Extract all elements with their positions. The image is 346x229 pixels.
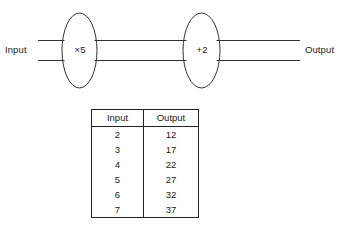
table-body: 2 12 3 17 4 22 5 27 6 32 xyxy=(92,127,199,218)
cell-input: 4 xyxy=(92,157,144,172)
table-row: 7 37 xyxy=(92,202,199,218)
diagram-canvas: Input Output ×5 +2 Input Output 2 12 3 1… xyxy=(0,0,346,229)
machine-pipe-graphic xyxy=(0,0,346,100)
table-header-row: Input Output xyxy=(92,110,199,127)
cell-input: 7 xyxy=(92,202,144,218)
operation-label-add: +2 xyxy=(183,44,221,55)
operation-label-multiply: ×5 xyxy=(62,44,98,55)
function-machine-diagram: Input Output ×5 +2 xyxy=(0,0,346,100)
column-header-output: Output xyxy=(144,110,199,127)
table-row: 5 27 xyxy=(92,172,199,187)
table-row: 6 32 xyxy=(92,187,199,202)
cell-output: 32 xyxy=(144,187,199,202)
output-label: Output xyxy=(305,44,334,55)
cell-output: 12 xyxy=(144,127,199,143)
cell-input: 6 xyxy=(92,187,144,202)
cell-output: 27 xyxy=(144,172,199,187)
cell-input: 3 xyxy=(92,142,144,157)
cell-input: 2 xyxy=(92,127,144,143)
table-row: 2 12 xyxy=(92,127,199,143)
input-output-table: Input Output 2 12 3 17 4 22 5 xyxy=(91,109,199,218)
cell-output: 37 xyxy=(144,202,199,218)
column-header-input: Input xyxy=(92,110,144,127)
table-row: 3 17 xyxy=(92,142,199,157)
input-output-table-container: Input Output 2 12 3 17 4 22 5 xyxy=(91,109,199,218)
cell-output: 17 xyxy=(144,142,199,157)
cell-output: 22 xyxy=(144,157,199,172)
input-label: Input xyxy=(5,44,27,55)
cell-input: 5 xyxy=(92,172,144,187)
table-row: 4 22 xyxy=(92,157,199,172)
